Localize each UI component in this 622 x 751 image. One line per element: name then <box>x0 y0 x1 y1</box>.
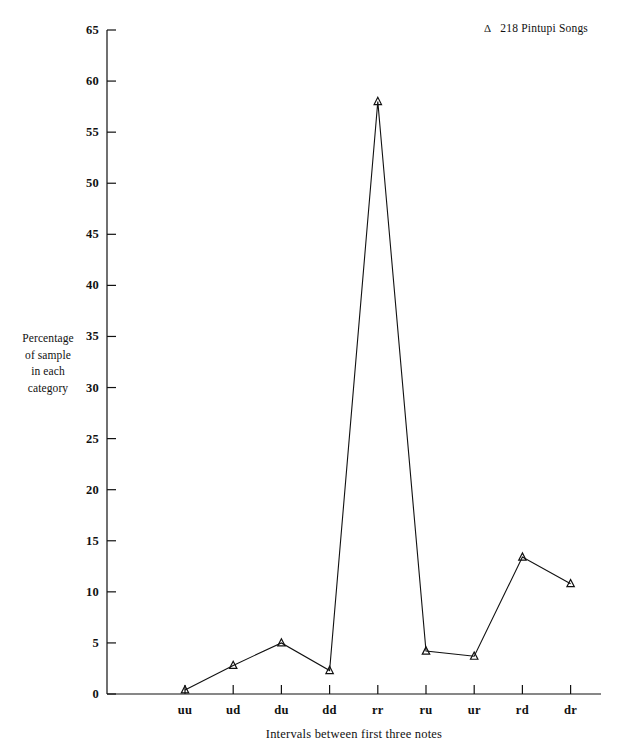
y-tick-label: 55 <box>65 126 99 139</box>
x-tick-label: ud <box>213 704 253 717</box>
y-axis-title-line-3: in each <box>6 363 90 380</box>
series-polyline <box>185 102 571 690</box>
x-tick-label: ru <box>406 704 446 717</box>
chart-figure: Δ 218 Pintupi Songs Percentage of sample… <box>0 0 622 751</box>
y-tick-label: 65 <box>65 24 99 37</box>
y-tick-label: 0 <box>65 688 99 701</box>
y-axis-title-line-2: of sample <box>6 347 90 364</box>
y-axis-ticks <box>107 30 116 694</box>
chart-legend: Δ 218 Pintupi Songs <box>484 22 588 34</box>
legend-triangle-icon: Δ <box>484 23 491 34</box>
y-tick-label: 30 <box>65 382 99 395</box>
y-tick-label: 50 <box>65 177 99 190</box>
y-tick-label: 10 <box>65 586 99 599</box>
x-tick-label: uu <box>165 704 205 717</box>
x-axis-title: Intervals between first three notes <box>107 727 601 742</box>
x-tick-label: dr <box>551 704 591 717</box>
x-tick-label: ur <box>454 704 494 717</box>
x-tick-label: rr <box>358 704 398 717</box>
x-tick-label: rd <box>502 704 542 717</box>
y-tick-label: 5 <box>65 637 99 650</box>
y-tick-label: 40 <box>65 279 99 292</box>
y-tick-label: 20 <box>65 484 99 497</box>
y-tick-label: 60 <box>65 75 99 88</box>
legend-label: 218 Pintupi Songs <box>500 22 588 34</box>
y-tick-label: 25 <box>65 433 99 446</box>
y-tick-label: 45 <box>65 228 99 241</box>
y-tick-label: 15 <box>65 535 99 548</box>
series-markers <box>181 97 574 693</box>
x-tick-label: dd <box>310 704 350 717</box>
x-axis-ticks <box>185 685 571 694</box>
x-tick-label: du <box>261 704 301 717</box>
y-tick-label: 35 <box>65 330 99 343</box>
axis-lines <box>107 30 601 694</box>
data-series-line <box>185 102 571 690</box>
